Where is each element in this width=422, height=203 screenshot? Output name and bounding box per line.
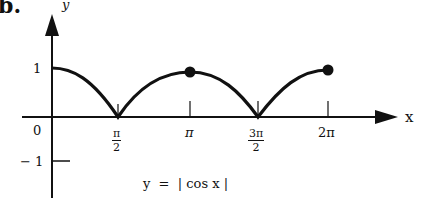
- y-tick-label-0: 0: [33, 124, 41, 137]
- point-pi: [185, 67, 196, 78]
- y-tick-label-minus1: − 1: [20, 155, 43, 168]
- x-tick-label-3pi-half: 3π 2: [248, 128, 264, 153]
- x-tick-label-2pi: 2π: [318, 126, 335, 139]
- x-axis-arrow-icon: [375, 110, 398, 124]
- x-tick-label-pi-half: π 2: [112, 128, 121, 153]
- y-axis-label: y: [62, 0, 69, 11]
- point-2pi: [323, 65, 334, 76]
- plot-area: [0, 0, 422, 203]
- y-axis-arrow-icon: [45, 14, 59, 36]
- y-tick-label-1: 1: [33, 62, 41, 75]
- x-tick-label-pi: π: [185, 126, 194, 139]
- function-caption: y = | cos x |: [143, 176, 228, 191]
- x-axis-label: x: [405, 110, 413, 125]
